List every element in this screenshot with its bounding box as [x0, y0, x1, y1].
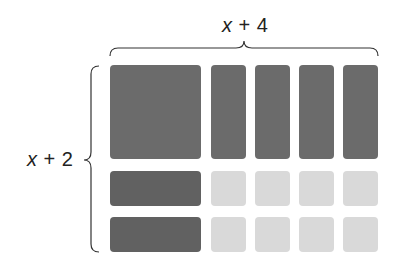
- unit-tile: [211, 171, 246, 206]
- unit-tile: [255, 217, 290, 252]
- unit-tile: [299, 171, 334, 206]
- unit-tile: [343, 217, 378, 252]
- x-tile-horizontal: [110, 217, 201, 252]
- unit-tile: [343, 171, 378, 206]
- x-tile-vertical: [299, 65, 334, 159]
- unit-tile: [211, 217, 246, 252]
- unit-tile: [299, 217, 334, 252]
- x-tile-horizontal: [110, 171, 201, 206]
- x-tile-vertical: [255, 65, 290, 159]
- unit-tile: [255, 171, 290, 206]
- x-tile-vertical: [211, 65, 246, 159]
- x-tile-vertical: [343, 65, 378, 159]
- algebra-tiles-diagram: x + 4 x + 2: [0, 0, 400, 266]
- x-squared-tile: [110, 65, 201, 159]
